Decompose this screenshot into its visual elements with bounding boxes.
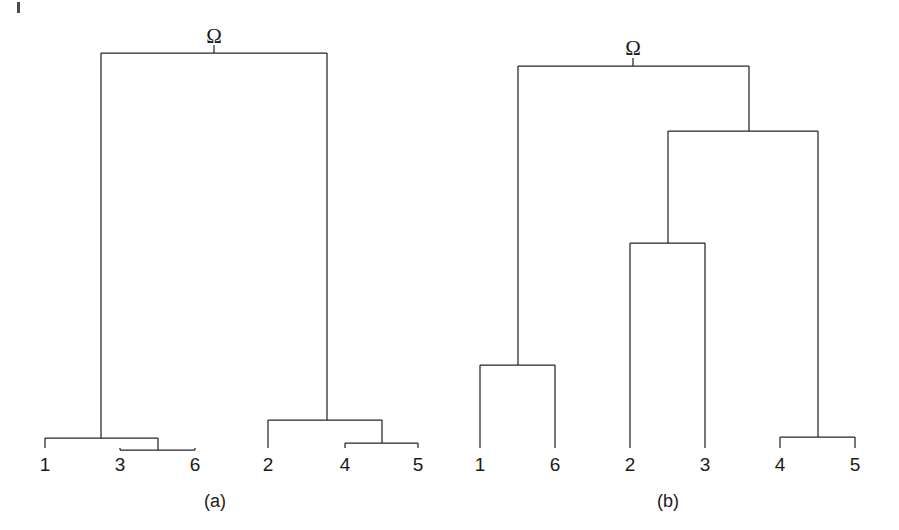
panel-b-leaf-label-3: 3 — [700, 455, 711, 474]
panel-a-leaf-label-3: 3 — [115, 455, 126, 474]
panel-a-leaf-label-6: 6 — [190, 455, 201, 474]
panel-a-leaf-label-1: 1 — [40, 455, 51, 474]
panel-b-leaf-label-1: 1 — [475, 455, 486, 474]
dendrogram-figure: Ω136245(a)Ω162345(b) — [0, 0, 899, 530]
panel-b-leaf-label-2: 2 — [625, 455, 636, 474]
panel-b-leaf-label-6: 6 — [550, 455, 561, 474]
panel-b-root-label: Ω — [625, 38, 641, 59]
panel-b-leaf-label-5: 5 — [850, 455, 861, 474]
panel-b-caption: (b) — [657, 492, 679, 510]
panel-b-leaf-label-4: 4 — [775, 455, 786, 474]
panel-a-caption: (a) — [204, 492, 226, 510]
panel-a-leaf-label-5: 5 — [413, 455, 424, 474]
panel-a-leaf-label-4: 4 — [340, 455, 351, 474]
dendrogram-canvas — [0, 0, 899, 530]
panel-a-root-label: Ω — [206, 26, 222, 47]
panel-a-leaf-label-2: 2 — [263, 455, 274, 474]
